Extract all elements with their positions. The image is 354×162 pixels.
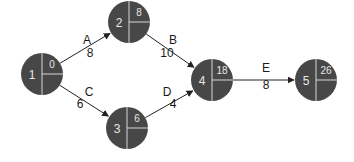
edge-duration-label: 8 [263, 78, 270, 92]
edge-duration-label: 6 [77, 97, 84, 111]
node-number: 5 [303, 74, 310, 88]
edge-activity-label: B [169, 33, 177, 47]
node-3: 36 [106, 107, 148, 149]
node-4: 418 [191, 59, 233, 101]
node-number: 2 [116, 16, 123, 30]
node-number: 1 [29, 68, 36, 82]
node-earliest-time: 26 [320, 65, 332, 76]
node-earliest-time: 6 [134, 113, 140, 124]
edge-activity-label: C [85, 85, 94, 99]
edge-duration-label: 10 [160, 46, 174, 60]
node-earliest-time: 18 [216, 65, 228, 76]
edge-activity-label: E [262, 61, 270, 75]
node-5: 526 [295, 59, 337, 101]
edge-duration-label: 8 [87, 46, 94, 60]
node-1: 10 [21, 53, 63, 95]
edge-activity-label: A [83, 33, 91, 47]
node-earliest-time: 0 [49, 59, 55, 70]
network-diagram: 102836418526 A8B10C6D4E8 [0, 0, 354, 162]
node-number: 3 [114, 122, 121, 136]
node-number: 4 [199, 74, 206, 88]
node-2: 28 [108, 1, 150, 43]
edge-duration-label: 4 [170, 97, 177, 111]
node-earliest-time: 8 [136, 7, 142, 18]
